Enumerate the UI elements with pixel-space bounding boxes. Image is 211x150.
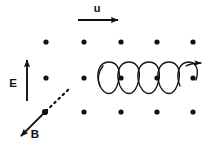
field-dot <box>118 39 123 44</box>
magnetic-field-dashed-extension <box>46 88 70 111</box>
field-dot <box>154 109 159 114</box>
magnetic-field-label: B <box>31 128 39 140</box>
field-dot <box>190 39 195 44</box>
electric-field-arrow-group: E <box>9 60 27 101</box>
velocity-label: u <box>94 2 101 14</box>
field-dot <box>118 109 123 114</box>
field-dot <box>154 39 159 44</box>
field-dot <box>81 109 86 114</box>
em-wave-figure: u E <box>0 0 211 150</box>
circular-polarization-helix <box>98 62 201 94</box>
field-dot <box>81 39 86 44</box>
magnetic-field-arrow-group: B <box>21 88 70 140</box>
velocity-arrow-group: u <box>78 2 118 20</box>
field-dot <box>43 75 48 80</box>
field-dot <box>43 39 48 44</box>
helix-loop <box>98 62 120 94</box>
field-dot <box>81 75 86 80</box>
electric-field-label: E <box>9 77 17 89</box>
helix-loop <box>158 62 180 94</box>
helix-arrow-tail <box>186 63 201 66</box>
field-dot <box>190 109 195 114</box>
field-dot <box>190 75 195 80</box>
figure-canvas: u E <box>0 0 211 150</box>
